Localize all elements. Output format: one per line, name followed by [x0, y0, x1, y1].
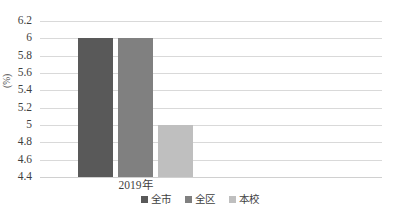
legend-item-全区[interactable]: 全区 — [185, 194, 215, 205]
x-axis-tick-label: 2019年 — [119, 179, 153, 191]
bar-全区 — [118, 38, 153, 177]
y-axis-tick-label: 6.2 — [18, 15, 32, 27]
legend-item-本校[interactable]: 本校 — [229, 194, 259, 205]
legend-label: 全市 — [151, 194, 171, 205]
legend-label: 全区 — [195, 194, 215, 205]
x-axis-tick-labels: 2019年 — [40, 179, 382, 195]
y-axis-tick-label: 4.6 — [18, 154, 32, 166]
bar-chart: (%) 6.265.85.65.45.254.84.64.4 2019年 全市全… — [0, 0, 399, 218]
legend-item-全市[interactable]: 全市 — [141, 194, 171, 205]
y-axis-tick-label: 5.6 — [18, 67, 32, 79]
legend-swatch-icon — [229, 196, 236, 203]
gridline — [40, 21, 382, 22]
bar-全市 — [78, 38, 113, 177]
y-axis-tick-label: 4.4 — [18, 171, 32, 183]
legend-swatch-icon — [185, 196, 192, 203]
y-axis-tick-label: 5.4 — [18, 85, 32, 97]
y-axis-tick-label: 6 — [26, 33, 32, 45]
chart-legend: 全市全区本校 — [0, 194, 399, 205]
y-axis-tick-label: 5.2 — [18, 102, 32, 114]
bar-本校 — [158, 125, 193, 177]
legend-label: 本校 — [239, 194, 259, 205]
y-axis-tick-label: 4.8 — [18, 137, 32, 149]
y-axis-tick-labels: 6.265.85.65.45.254.84.64.4 — [0, 21, 36, 177]
y-axis-tick-label: 5 — [26, 119, 32, 131]
plot-area — [40, 21, 382, 177]
gridline — [40, 177, 382, 178]
y-axis-tick-label: 5.8 — [18, 50, 32, 62]
legend-swatch-icon — [141, 196, 148, 203]
